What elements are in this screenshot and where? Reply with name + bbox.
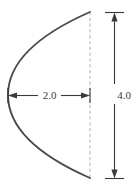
- vertical-dimension-label: 4.0: [117, 89, 131, 101]
- parabola-dimension-diagram: 2.0 4.0: [0, 0, 137, 190]
- horizontal-dimension-label: 2.0: [43, 89, 57, 101]
- figure-container: 2.0 4.0: [0, 0, 137, 190]
